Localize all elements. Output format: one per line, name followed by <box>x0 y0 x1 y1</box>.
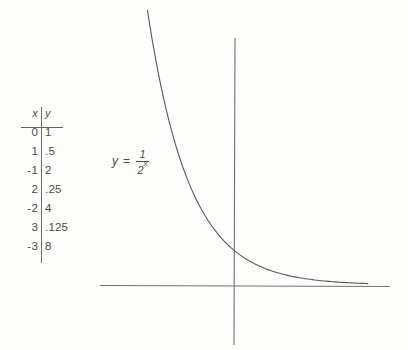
equation-denominator: 2x <box>137 162 147 176</box>
y-axis-line <box>234 38 235 345</box>
exponential-decay-curve <box>147 10 367 284</box>
equation-lhs: y <box>112 154 118 168</box>
equation-denominator-base: 2 <box>137 164 143 176</box>
exponential-decay-figure: x y 0 1 1 .5 -1 2 2 .25 -2 4 3 .125 -3 8 <box>0 0 408 350</box>
equation-label: y = 1 2x <box>112 148 149 175</box>
graph-plot <box>0 0 408 350</box>
equation-fraction: 1 2x <box>136 149 149 176</box>
equation-denominator-exponent: x <box>144 159 148 168</box>
x-axis-line <box>100 286 390 287</box>
equation-equals-sign: = <box>123 154 130 168</box>
